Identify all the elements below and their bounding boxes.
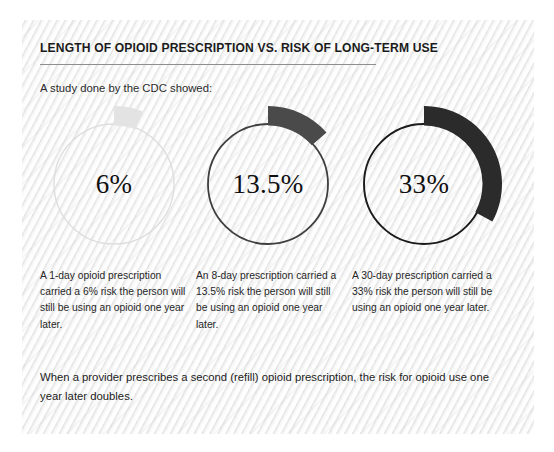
footer-note: When a provider prescribes a second (ref… (40, 368, 502, 406)
donut-1-day-value: 6% (38, 108, 190, 260)
donut-8-day-value: 13.5% (192, 108, 344, 260)
donut-chart-1-day: 6% (38, 108, 190, 260)
caption-8-day: An 8-day prescription carried a 13.5% ri… (196, 268, 344, 333)
page-title: LENGTH OF OPIOID PRESCRIPTION VS. RISK O… (40, 41, 438, 55)
caption-30-day: A 30-day prescription carried a 33% risk… (352, 268, 500, 317)
donut-chart-row: 6% 13.5% 33% (22, 108, 534, 260)
donut-chart-8-day: 13.5% (192, 108, 344, 260)
infographic-content: LENGTH OF OPIOID PRESCRIPTION VS. RISK O… (22, 20, 534, 434)
donut-chart-30-day: 33% (348, 108, 500, 260)
infographic-page: LENGTH OF OPIOID PRESCRIPTION VS. RISK O… (0, 0, 554, 452)
title-underline-rule (40, 64, 376, 65)
donut-30-day-value: 33% (348, 108, 500, 260)
caption-1-day: A 1-day opioid prescription carried a 6%… (40, 268, 188, 333)
subtitle: A study done by the CDC showed: (40, 82, 212, 94)
